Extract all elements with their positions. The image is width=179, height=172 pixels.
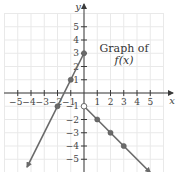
filled-point <box>121 143 126 148</box>
x-tick-label: −3 <box>36 97 50 107</box>
y-tick-label: −1 <box>66 101 79 111</box>
filled-point <box>68 77 73 82</box>
y-tick-label: 3 <box>73 48 79 58</box>
y-tick-label: 1 <box>73 75 79 85</box>
y-tick-label: 5 <box>73 22 79 32</box>
x-tick-label: −4 <box>22 97 36 107</box>
filled-point <box>95 117 100 122</box>
x-tick-label: 4 <box>134 97 140 107</box>
x-axis-label: x <box>169 95 175 106</box>
filled-point <box>55 104 60 109</box>
open-point <box>81 103 87 109</box>
filled-point <box>81 51 86 56</box>
x-tick-label: 5 <box>147 97 153 107</box>
y-tick-label: −5 <box>66 154 80 164</box>
function-lines <box>27 53 150 172</box>
filled-point <box>108 130 113 135</box>
function-line-1 <box>84 106 150 172</box>
y-tick-label: −2 <box>66 115 79 125</box>
function-graph: x−5−4−3−2−112345 y54321−1−2−3−4−5 Graph … <box>0 0 179 172</box>
y-tick-label: −3 <box>66 128 80 138</box>
graph-annotation-line2: f(x) <box>114 54 134 67</box>
y-tick-label: 4 <box>73 35 79 45</box>
y-tick-label: −4 <box>66 141 80 151</box>
x-tick-label: 3 <box>121 97 127 107</box>
x-axis: x−5−4−3−2−112345 <box>4 90 175 107</box>
x-tick-label: 1 <box>94 97 100 107</box>
x-tick-label: 2 <box>108 97 114 107</box>
x-tick-label: −5 <box>9 97 23 107</box>
y-axis-label: y <box>74 1 81 12</box>
